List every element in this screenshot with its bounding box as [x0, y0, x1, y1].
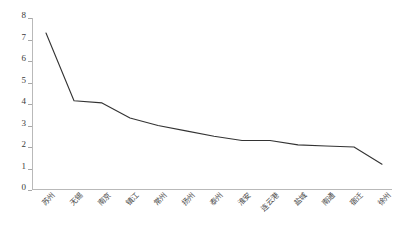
data-line-series: [32, 18, 392, 190]
y-tick-label: 1: [22, 162, 27, 171]
x-axis-label: 宿迁: [349, 192, 365, 208]
x-axis-label: 南京: [97, 192, 113, 208]
y-tick-label: 2: [22, 140, 27, 149]
data-polyline: [46, 33, 382, 164]
y-tick-label: 7: [22, 33, 27, 42]
y-tick-label: 6: [22, 54, 27, 63]
x-axis-labels: 苏州无锡南京镇江常州扬州泰州淮安连云港盐城南通宿迁徐州: [32, 192, 392, 244]
x-axis-label: 盐城: [293, 192, 309, 208]
plot-area: 012345678: [32, 18, 392, 190]
y-tick-label: 0: [22, 183, 27, 192]
chart-page: 012345678 苏州无锡南京镇江常州扬州泰州淮安连云港盐城南通宿迁徐州: [0, 0, 403, 246]
x-axis-label: 苏州: [41, 192, 57, 208]
y-tick-label: 5: [22, 76, 27, 85]
y-tick-label: 4: [22, 97, 27, 106]
x-axis-label: 扬州: [181, 192, 197, 208]
x-axis-label: 常州: [153, 192, 169, 208]
y-tick-mark: [28, 190, 32, 191]
x-axis-label: 镇江: [125, 192, 141, 208]
x-axis-label: 泰州: [209, 192, 225, 208]
x-axis-label: 无锡: [69, 192, 85, 208]
x-axis-label: 徐州: [377, 192, 393, 208]
x-axis-label: 淮安: [237, 192, 253, 208]
x-axis-label: 南通: [321, 192, 337, 208]
y-tick-label: 3: [22, 119, 27, 128]
y-tick-label: 8: [22, 11, 27, 20]
x-axis-label: 连云港: [260, 192, 281, 213]
